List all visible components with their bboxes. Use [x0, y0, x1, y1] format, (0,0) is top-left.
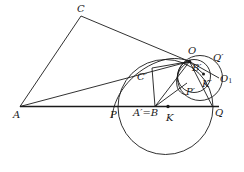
label-O-one: O1 [220, 74, 232, 84]
label-K-prime: K′ [202, 79, 212, 89]
segment-B-to-Cprime-corner [152, 68, 155, 107]
label-B-prime: B′ [192, 63, 202, 73]
label-Q: Q [215, 108, 223, 118]
label-A-prime-equals-B: A′=B [133, 108, 158, 118]
label-C-prime: C′ [137, 72, 147, 82]
geometry-figure: C O Q′ B′ C′ O1 K′ P′ A P A′=B K Q [0, 0, 244, 172]
label-K: K [166, 113, 173, 123]
point-dot-O [188, 60, 191, 63]
point-dot-Kprime [202, 73, 205, 76]
label-A: A [13, 110, 20, 120]
segment-C-to-O [81, 16, 190, 62]
label-C: C [77, 4, 85, 14]
label-P: P [110, 110, 117, 120]
segment-B-to-Pprime [155, 83, 187, 107]
label-Q-prime: Q′ [213, 53, 223, 63]
segment-B-to-O [155, 62, 190, 107]
label-P-prime: P′ [186, 87, 195, 97]
point-dot-K [166, 105, 169, 108]
label-O: O [188, 46, 196, 56]
